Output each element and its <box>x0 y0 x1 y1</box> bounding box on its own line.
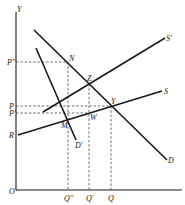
supply-demand-diagram: Y O D D' S S' N Z Y W M P'' P P' R Q'' Q… <box>0 0 185 205</box>
tick-label-q-dblprime: Q'' <box>64 194 73 203</box>
tick-label-q-prime: Q' <box>86 194 94 203</box>
tick-label-p-dblprime: P'' <box>6 58 16 67</box>
tick-label-p-prime: P' <box>8 109 16 118</box>
point-label-n: N <box>68 54 75 63</box>
curve-label-d-prime: D' <box>74 141 83 150</box>
point-label-z: Z <box>87 74 92 83</box>
origin-label: O <box>9 187 15 196</box>
tick-label-r: R <box>8 131 14 140</box>
curve-label-s-prime: S' <box>166 34 172 43</box>
tick-label-q: Q <box>108 194 114 203</box>
y-axis-label: Y <box>17 5 23 14</box>
point-label-w: W <box>90 113 98 122</box>
curve-label-d: D <box>167 156 174 165</box>
point-label-m: M <box>60 121 69 130</box>
curve-label-s: S <box>164 87 168 96</box>
supply-curve-s-prime <box>43 38 165 112</box>
